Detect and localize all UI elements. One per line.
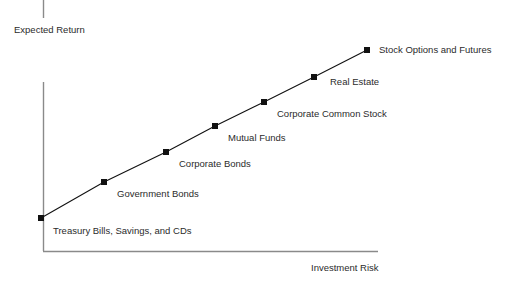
y-axis-title: Expected Return [14, 24, 85, 36]
data-point-label: Government Bonds [117, 188, 199, 200]
data-point-label: Real Estate [330, 76, 379, 88]
data-point-marker [163, 149, 169, 155]
data-point-label: Treasury Bills, Savings, and CDs [53, 225, 192, 237]
data-point-marker [311, 74, 317, 80]
data-point-marker [364, 47, 370, 53]
data-point-marker [38, 215, 44, 221]
trend-line [41, 50, 367, 218]
data-point-label: Corporate Common Stock [277, 108, 387, 120]
data-point-label: Mutual Funds [228, 132, 286, 144]
data-point-marker [261, 99, 267, 105]
data-point-marker [212, 123, 218, 129]
x-axis-title: Investment Risk [311, 262, 379, 274]
risk-return-chart: Expected Return Investment Risk Treasury… [0, 0, 518, 285]
data-point-label: Corporate Bonds [179, 158, 251, 170]
data-series [38, 47, 370, 221]
data-point-label: Stock Options and Futures [379, 44, 491, 56]
data-point-marker [101, 179, 107, 185]
